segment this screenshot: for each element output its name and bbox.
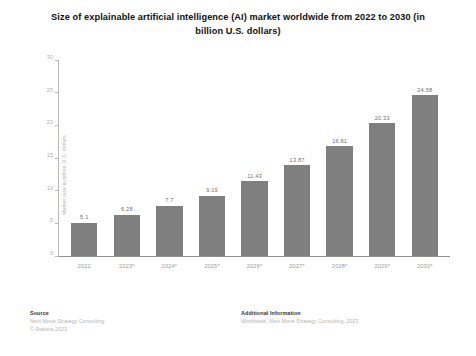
bar[interactable]	[412, 95, 438, 256]
bar-value-label: 7.7	[165, 197, 173, 203]
x-axis-tick-label: 2028*	[318, 256, 361, 294]
bar-column[interactable]: 13.87	[276, 60, 319, 256]
chart-title: Size of explainable artificial intellige…	[46, 10, 430, 39]
bar-column[interactable]: 24.58	[404, 60, 447, 256]
x-axis-tick-label: 2026*	[233, 256, 276, 294]
y-tick-label: 15	[33, 152, 53, 158]
chart-frame: Market size in billion U.S. dollars 0510…	[18, 55, 458, 295]
bar-column[interactable]: 6.28	[106, 60, 149, 256]
bar-value-label: 13.87	[290, 157, 305, 163]
bar-column[interactable]: 16.81	[318, 60, 361, 256]
bar-value-label: 6.28	[121, 206, 133, 212]
source-line: Next Move Strategy Consulting	[30, 318, 205, 326]
bar[interactable]	[199, 196, 225, 256]
x-axis-tick-label: 2023*	[106, 256, 149, 294]
y-tick-label: 30	[33, 54, 53, 60]
source-copyright: © Statista 2023	[30, 326, 205, 334]
bar[interactable]	[71, 223, 97, 256]
x-axis-tick-label: 2029*	[361, 256, 404, 294]
chart-footer: Source Next Move Strategy Consulting © S…	[30, 310, 450, 334]
y-tick-label: 0	[33, 250, 53, 256]
y-tick-label: 25	[33, 87, 53, 93]
y-tick-label: 10	[33, 185, 53, 191]
additional-info-heading: Additional Information	[241, 310, 416, 316]
bar[interactable]	[114, 215, 140, 256]
bar[interactable]	[284, 165, 310, 256]
source-heading: Source	[30, 310, 205, 316]
bar-column[interactable]: 9.19	[191, 60, 234, 256]
x-axis-labels: 20222023*2024*2025*2026*2027*2028*2029*2…	[59, 256, 450, 294]
x-axis-tick-label: 2022	[63, 256, 106, 294]
bar-column[interactable]: 20.33	[361, 60, 404, 256]
x-axis-tick-label: 2027*	[276, 256, 319, 294]
bar[interactable]	[156, 206, 182, 256]
bar-value-label: 9.19	[206, 187, 218, 193]
bar-series: 5.16.287.79.1911.4313.8716.8120.3324.58	[59, 60, 450, 256]
bar[interactable]	[326, 146, 352, 256]
x-axis-tick-label: 2030*	[404, 256, 447, 294]
chart-page: Size of explainable artificial intellige…	[0, 0, 476, 356]
bar[interactable]	[241, 181, 267, 256]
additional-info-line: Worldwide; Next Move Strategy Consulting…	[241, 318, 416, 326]
bar[interactable]	[369, 123, 395, 256]
additional-info-block: Additional Information Worldwide; Next M…	[241, 310, 416, 334]
source-block: Source Next Move Strategy Consulting © S…	[30, 310, 205, 334]
bar-value-label: 20.33	[375, 115, 390, 121]
plot-area: 051015202530 5.16.287.79.1911.4313.8716.…	[58, 60, 450, 257]
x-axis-tick-label: 2025*	[191, 256, 234, 294]
bar-column[interactable]: 7.7	[148, 60, 191, 256]
y-tick-label: 5	[33, 217, 53, 223]
bar-value-label: 16.81	[332, 138, 347, 144]
bar-column[interactable]: 11.43	[233, 60, 276, 256]
bar-value-label: 5.1	[80, 214, 88, 220]
bar-value-label: 11.43	[247, 173, 262, 179]
x-axis-tick-label: 2024*	[148, 256, 191, 294]
bar-value-label: 24.58	[417, 87, 432, 93]
bar-column[interactable]: 5.1	[63, 60, 106, 256]
y-tick-label: 20	[33, 119, 53, 125]
